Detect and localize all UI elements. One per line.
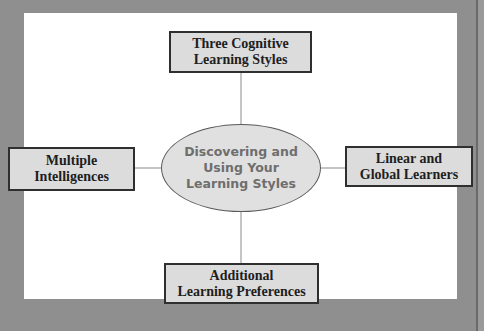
node-label-line: Linear and <box>360 151 458 167</box>
node-label-line: Learning Styles <box>192 52 289 68</box>
node-label-line: Intelligences <box>34 169 109 185</box>
node-multiple-intelligences: Multiple Intelligences <box>8 147 135 191</box>
node-label-line: Global Learners <box>360 167 458 183</box>
node-linear-and-global-learners: Linear and Global Learners <box>345 146 473 187</box>
node-three-cognitive-learning-styles: Three Cognitive Learning Styles <box>169 31 312 73</box>
center-node-discovering-learning-styles: Discovering and Using Your Learning Styl… <box>161 124 321 212</box>
node-additional-learning-preferences: Additional Learning Preferences <box>164 263 319 304</box>
node-label-line: Additional <box>177 268 305 284</box>
center-label-line: Learning Styles <box>184 176 298 192</box>
node-label-line: Learning Preferences <box>177 284 305 300</box>
center-label-line: Using Your <box>184 160 298 176</box>
center-label-line: Discovering and <box>184 144 298 160</box>
node-label-line: Three Cognitive <box>192 36 289 52</box>
node-label-line: Multiple <box>34 153 109 169</box>
